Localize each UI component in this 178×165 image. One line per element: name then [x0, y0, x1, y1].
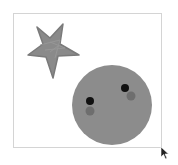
star-shape[interactable] [28, 24, 79, 78]
drawing-canvas[interactable] [0, 0, 178, 165]
circle-shape[interactable] [72, 65, 152, 145]
arrow-cursor-icon [160, 146, 170, 160]
circle-dot [86, 97, 94, 105]
circle-dot [121, 84, 129, 92]
circle-dot [86, 107, 95, 116]
circle-dot [127, 92, 136, 101]
